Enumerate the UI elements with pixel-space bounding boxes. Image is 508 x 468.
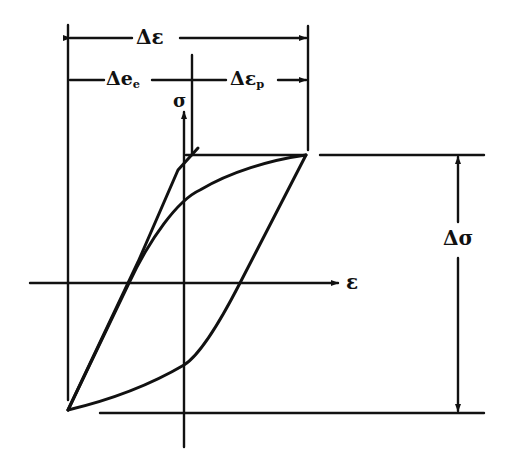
hysteresis-diagram: Δε Δee Δεp σ ε Δσ bbox=[0, 0, 508, 468]
sigma-axis-label: σ bbox=[173, 92, 186, 110]
delta-ep-label: Δεp bbox=[230, 69, 264, 90]
delta-epsilon-label: Δε bbox=[136, 27, 164, 47]
delta-ee-label: Δee bbox=[106, 69, 140, 90]
delta-sigma-label: Δσ bbox=[443, 228, 473, 248]
epsilon-axis-label: ε bbox=[346, 272, 358, 292]
